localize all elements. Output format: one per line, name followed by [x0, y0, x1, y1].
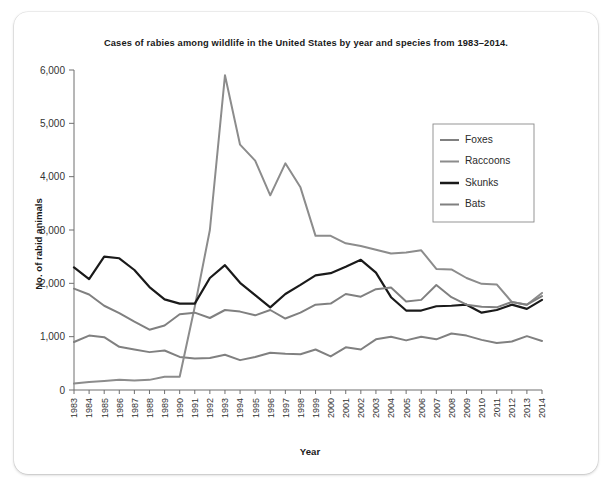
x-tick-label: 1994: [235, 398, 245, 418]
y-tick-label: 1,000: [40, 331, 65, 342]
y-axis: 01,0002,0003,0004,0005,0006,000: [40, 65, 74, 396]
x-tick-label: 1983: [69, 398, 79, 418]
x-tick-label: 2008: [447, 398, 457, 418]
x-tick-label: 1984: [84, 398, 94, 418]
x-tick-label: 1997: [281, 398, 291, 418]
x-tick-label: 1998: [296, 398, 306, 418]
x-tick-label: 2007: [432, 398, 442, 418]
x-tick-label: 2014: [537, 398, 547, 418]
x-tick-label: 1990: [175, 398, 185, 418]
x-tick-label: 1991: [190, 398, 200, 418]
x-tick-label: 1999: [311, 398, 321, 418]
x-tick-label: 2005: [402, 398, 412, 418]
x-tick-label: 2001: [341, 398, 351, 418]
x-tick-label: 1989: [160, 398, 170, 418]
series-lines: [74, 75, 542, 383]
y-tick-label: 4,000: [40, 171, 65, 182]
x-tick-label: 2012: [507, 398, 517, 418]
y-tick-label: 5,000: [40, 118, 65, 129]
x-tick-label: 2006: [417, 398, 427, 418]
x-tick-label: 2002: [356, 398, 366, 418]
x-tick-label: 2009: [462, 398, 472, 418]
x-tick-label: 1985: [100, 398, 110, 418]
legend-label-raccoons: Raccoons: [465, 155, 510, 166]
x-tick-label: 2013: [522, 398, 532, 418]
x-tick-label: 1992: [205, 398, 215, 418]
x-tick-label: 2003: [371, 398, 381, 418]
legend-label-skunks: Skunks: [465, 177, 498, 188]
x-tick-label: 1995: [251, 398, 261, 418]
x-tick-label: 2000: [326, 398, 336, 418]
legend-label-bats: Bats: [465, 198, 485, 209]
chart-card: Cases of rabies among wildlife in the Un…: [14, 12, 598, 474]
x-tick-label: 1987: [130, 398, 140, 418]
chart-plot-area: 01,0002,0003,0004,0005,0006,000 19831984…: [14, 12, 598, 474]
x-tick-label: 2011: [492, 398, 502, 417]
x-tick-label: 1996: [266, 398, 276, 418]
x-axis: 1983198419851986198719881989199019911992…: [69, 390, 547, 418]
y-axis-title: No. of rabid animals: [33, 198, 44, 290]
y-tick-label: 6,000: [40, 65, 65, 76]
x-tick-label: 1986: [115, 398, 125, 418]
x-tick-label: 2010: [477, 398, 487, 418]
series-line-foxes: [74, 333, 542, 360]
x-tick-label: 1988: [145, 398, 155, 418]
x-tick-label: 2004: [386, 398, 396, 418]
x-axis-title: Year: [300, 446, 321, 457]
legend-label-foxes: Foxes: [465, 134, 493, 145]
chart-legend: FoxesRaccoonsSkunksBats: [433, 124, 534, 222]
y-tick-label: 0: [59, 385, 65, 396]
x-tick-label: 1993: [220, 398, 230, 418]
series-line-skunks: [74, 257, 542, 313]
